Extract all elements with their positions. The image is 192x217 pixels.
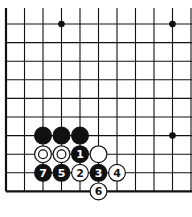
- white-stone: [35, 146, 52, 163]
- black-stone: [35, 127, 52, 144]
- black-stone: [72, 127, 89, 144]
- move-number: 5: [58, 167, 66, 180]
- move-number: 1: [76, 148, 84, 161]
- move-number: 7: [39, 167, 47, 180]
- white-stone: [90, 146, 107, 163]
- star-point: [169, 21, 176, 28]
- black-stone: [53, 127, 70, 144]
- move-number: 6: [95, 185, 103, 198]
- move-number: 3: [95, 167, 103, 180]
- move-number: 2: [76, 167, 84, 180]
- white-stone: [53, 146, 70, 163]
- star-point: [58, 21, 65, 28]
- star-point: [169, 132, 176, 139]
- move-number: 4: [113, 167, 121, 180]
- go-board: 1752346: [0, 0, 192, 217]
